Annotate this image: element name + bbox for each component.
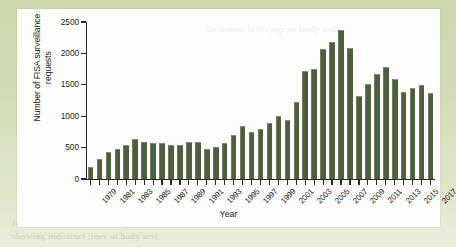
x-tick [179,180,180,185]
y-tick-label: 1000 [61,111,79,121]
x-tick-label: 2001 [297,187,315,205]
bar [123,145,129,179]
x-tick-label: 2003 [315,187,333,205]
x-tick-label: 2005 [333,187,351,205]
x-tick [135,180,136,185]
bar [222,143,228,179]
chart-panel: the contents of this page are faintly vi… [17,9,440,227]
bar [97,159,103,179]
x-tick [412,180,413,185]
x-tick [197,180,198,185]
bar [285,120,291,179]
x-tick [331,180,332,185]
x-tick [385,180,386,185]
bar [195,142,201,179]
x-tick-label: 2009 [368,187,386,205]
x-tick [99,180,100,185]
bar [258,129,264,179]
bar [159,143,165,179]
x-tick-label: 2011 [386,187,404,205]
x-tick-label: 1995 [243,187,261,205]
x-tick [421,180,422,185]
bar [392,79,398,179]
x-tick-label: 1981 [118,187,136,205]
y-axis-line [86,22,87,180]
y-tick [81,21,86,22]
x-tick [251,180,252,185]
y-tick [81,147,86,148]
x-tick-label: 1997 [261,187,279,205]
x-tick [170,180,171,185]
x-tick [90,180,91,185]
y-axis-title: Number of FISA surveillance requests [32,0,53,138]
x-tick [287,180,288,185]
bar [186,142,192,179]
x-tick-label: 2007 [351,187,369,205]
bar [132,139,138,179]
x-tick [161,180,162,185]
bar [374,74,380,179]
bar [401,92,407,179]
x-tick-label: 1979 [100,187,118,205]
bar [249,132,255,179]
x-tick [367,180,368,185]
x-tick [188,180,189,185]
x-tick [358,180,359,185]
x-tick [278,180,279,185]
bar [88,167,94,179]
x-tick [340,180,341,185]
x-tick [153,180,154,185]
bar [383,67,389,179]
bar [410,88,416,179]
bar [365,84,371,179]
bar [177,145,183,179]
x-tick [206,180,207,185]
x-tick-label: 1991 [207,187,225,205]
bar [356,96,362,179]
bar [419,85,425,179]
bar [347,48,353,179]
x-tick-label: 1989 [189,187,207,205]
x-tick-label: 1983 [136,187,154,205]
x-tick [376,180,377,185]
y-tick-label: 2000 [61,48,79,58]
x-tick [126,180,127,185]
x-tick [224,180,225,185]
page-root: the contents of this page are faintly vi… [0,0,456,247]
plot-area: 05001000150020002500 Number of FISA surv… [17,9,440,227]
x-tick-label: 1993 [225,187,243,205]
x-axis-title: Year [17,209,440,219]
bar [267,123,273,179]
x-tick-label: 1985 [154,187,172,205]
bar [428,93,434,179]
bar [338,30,344,179]
y-tick [81,53,86,54]
bar [329,42,335,179]
bar [294,102,300,179]
bar [231,135,237,179]
y-tick-label: 500 [65,142,79,152]
y-tick [81,84,86,85]
x-tick-label: 1999 [279,187,297,205]
bar [168,145,174,179]
x-tick [215,180,216,185]
bar [106,152,112,179]
bar [204,149,210,179]
x-tick [296,180,297,185]
bar [240,126,246,179]
x-tick-label: 2013 [404,187,422,205]
y-tick [81,116,86,117]
bar [141,142,147,179]
x-tick [323,180,324,185]
x-tick-label: 2015 [422,187,440,205]
bar [150,143,156,179]
bar [320,49,326,179]
bar [311,69,317,179]
x-tick [394,180,395,185]
bar [302,71,308,179]
x-tick-label: 1987 [172,187,190,205]
bar [213,147,219,179]
y-tick-label: 0 [74,174,79,184]
y-tick-label: 1500 [61,79,79,89]
x-tick [403,180,404,185]
